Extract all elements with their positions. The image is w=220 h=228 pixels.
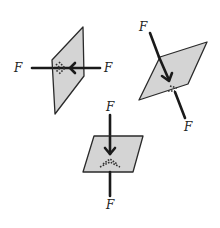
force-label-top: F	[105, 100, 115, 114]
force-label-top: F	[138, 20, 148, 34]
panel-top-right-tilted-plane: F F	[138, 20, 207, 134]
force-line-top-outer	[150, 33, 159, 57]
force-label-left: F	[13, 61, 23, 75]
force-label-right: F	[103, 61, 113, 75]
panel-left-vertical-plane: F F	[13, 27, 113, 114]
tilted-plane	[139, 42, 207, 100]
horizontal-plane	[83, 136, 143, 172]
force-line-bottom	[175, 92, 185, 118]
panel-bottom-horizontal-plane: F F	[83, 100, 143, 212]
force-diagram: F F F F F F	[0, 0, 220, 228]
force-label-bottom: F	[183, 120, 193, 134]
force-label-bottom: F	[105, 198, 115, 212]
